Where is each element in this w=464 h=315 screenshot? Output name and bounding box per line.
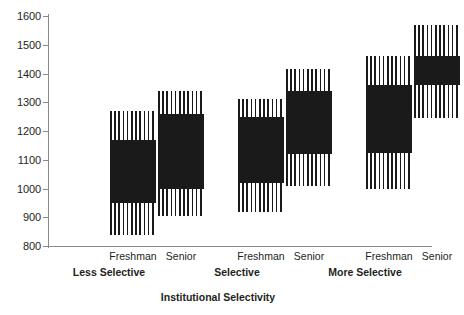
range-bar-inner-solid [366,85,412,153]
range-bar [110,16,156,246]
y-axis-tick-label: 1600 [17,10,41,22]
range-bar-inner-solid [158,114,204,189]
x-axis-line [48,246,432,247]
range-bar [286,16,332,246]
x-axis-series-label: Senior [149,250,213,262]
y-axis-tick [43,217,48,218]
range-bar [414,16,460,246]
range-bar-inner-solid [110,140,156,203]
range-bar [366,16,412,246]
x-axis-group-label: More Selective [290,266,440,278]
y-axis-tick [43,45,48,46]
y-axis-tick [43,16,48,17]
y-axis-tick [43,189,48,190]
y-axis-tick [43,102,48,103]
y-axis-tick [43,131,48,132]
x-axis-title: Institutional Selectivity [0,291,436,303]
range-bar-inner-solid [238,117,284,183]
y-axis-tick-label: 1200 [17,125,41,137]
y-axis-tick-label: 900 [23,211,41,223]
y-axis-tick [43,74,48,75]
range-bar-inner-solid [414,56,460,85]
range-bar-inner-solid [286,91,332,154]
y-axis-tick-label: 1000 [17,183,41,195]
y-axis-tick [43,160,48,161]
y-axis-tick [43,246,48,247]
y-axis-tick-label: 1400 [17,68,41,80]
y-axis-tick-label: 1100 [18,154,41,166]
y-axis-tick-label: 800 [23,240,41,252]
y-axis-tick-label: 1300 [17,96,41,108]
y-axis-tick-label: 1500 [17,39,41,51]
range-bar [158,16,204,246]
x-axis-series-label: Senior [277,250,341,262]
plot-area: 8009001000110012001300140015001600 [48,16,430,246]
x-axis-series-label: Senior [405,250,464,262]
range-bar [238,16,284,246]
